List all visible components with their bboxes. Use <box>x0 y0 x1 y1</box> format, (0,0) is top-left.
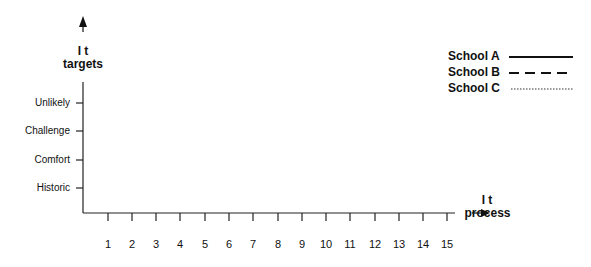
x-tick-label: 2 <box>122 238 142 250</box>
y-tick-label-historic: Historic <box>0 182 70 193</box>
chart-axes <box>0 0 591 267</box>
legend-item-school-c: School C <box>448 82 500 98</box>
x-tick-label: 4 <box>170 238 190 250</box>
x-tick-label: 7 <box>243 238 263 250</box>
legend-item-school-b: School B <box>448 66 500 82</box>
y-tick-label-comfort: Comfort <box>0 154 70 165</box>
x-tick-label: 6 <box>219 238 239 250</box>
x-tick-label: 10 <box>316 238 336 250</box>
x-axis-title-2: process <box>460 207 515 220</box>
y-tick-label-challenge: Challenge <box>0 125 70 136</box>
x-tick-label: 13 <box>389 238 409 250</box>
x-tick-label: 1 <box>98 238 118 250</box>
x-tick-label: 12 <box>365 238 385 250</box>
legend-item-school-a: School A <box>448 50 500 66</box>
x-tick-label: 11 <box>340 238 360 250</box>
y-axis-arrow-icon <box>79 16 87 27</box>
legend: School A School B School C <box>448 50 500 98</box>
y-axis-title: I t targets <box>58 45 108 71</box>
y-tick-marks <box>76 103 83 188</box>
x-tick-label: 15 <box>437 238 457 250</box>
x-tick-label: 3 <box>146 238 166 250</box>
x-tick-label: 14 <box>413 238 433 250</box>
x-axis-title-line2: process <box>460 207 515 220</box>
y-tick-label-unlikely: Unlikely <box>0 97 70 108</box>
x-tick-label: 9 <box>292 238 312 250</box>
x-tick-label: 8 <box>268 238 288 250</box>
y-axis-title-line2: targets <box>58 58 108 71</box>
x-tick-label: 5 <box>195 238 215 250</box>
x-tick-marks <box>108 213 447 221</box>
